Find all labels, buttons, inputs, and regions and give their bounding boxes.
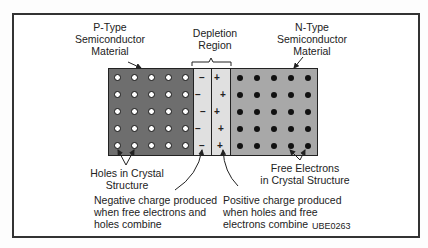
annotation-arrows <box>0 0 428 248</box>
